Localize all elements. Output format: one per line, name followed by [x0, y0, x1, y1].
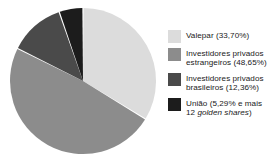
legend-item-valepar[interactable]: Valepar (33,70%)	[168, 30, 280, 43]
pie-chart-plot-area	[0, 0, 166, 161]
legend-item-investidores-privados-brasileiros[interactable]: Investidores privadosbrasileiros (12,36%…	[168, 73, 280, 93]
legend-label-investidores-privados-brasileiros: Investidores privadosbrasileiros (12,36%…	[186, 73, 264, 93]
legend-swatch-uniao	[168, 98, 181, 111]
legend-item-investidores-privados-estrangeiros[interactable]: Investidores privadosestrangeiros (48,65…	[168, 48, 280, 68]
legend-swatch-valepar	[168, 30, 181, 43]
legend-label-investidores-privados-estrangeiros: Investidores privadosestrangeiros (48,65…	[186, 48, 267, 68]
pie-slices	[10, 8, 156, 154]
legend-label-valepar: Valepar (33,70%)	[186, 30, 249, 40]
legend-label-uniao: União (5,29% e mais12 golden shares)	[186, 98, 262, 118]
pie-chart-svg	[0, 0, 166, 161]
pie-chart-figure: Valepar (33,70%) Investidores privadoses…	[0, 0, 280, 161]
legend-swatch-investidores-privados-estrangeiros	[168, 48, 181, 61]
legend-item-uniao[interactable]: União (5,29% e mais12 golden shares)	[168, 98, 280, 118]
chart-legend: Valepar (33,70%) Investidores privadoses…	[168, 30, 280, 122]
legend-swatch-investidores-privados-brasileiros	[168, 73, 181, 86]
